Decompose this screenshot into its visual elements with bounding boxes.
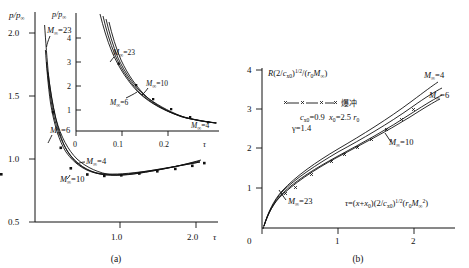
legend-label: 爆冲	[341, 98, 357, 108]
panel-a-label-m10: M∞=10	[59, 174, 84, 185]
svg-text:M∞=23: M∞=23	[287, 196, 312, 207]
panel-b-ylabel-2: 2	[247, 143, 252, 153]
inset-ylabel-4: 4	[67, 34, 71, 43]
svg-text:M∞=6: M∞=6	[428, 90, 449, 101]
svg-text:M∞=6: M∞=6	[109, 98, 128, 108]
panel-a-ylabel-1.5: 1.5	[8, 91, 20, 101]
panel-a-markers	[0, 111, 206, 177]
inset-curve-m6	[106, 19, 216, 123]
svg-text:M∞=23: M∞=23	[112, 48, 135, 58]
svg-text:M∞=10: M∞=10	[388, 137, 413, 148]
panel-a-ylabel: p/p∞	[8, 10, 25, 21]
panel-a-xaxis-title: τ	[213, 232, 217, 242]
panel-b-legend: 爆冲	[284, 98, 357, 108]
inset-xlabel-0.1: 0.1	[113, 140, 123, 149]
inset-label-m4: M∞=4	[190, 121, 209, 131]
panel-b-ylabel-0: 0	[247, 236, 252, 246]
legend-markers	[284, 101, 337, 104]
svg-text:M∞=10: M∞=10	[145, 79, 168, 89]
panel-a-curve-m6	[47, 62, 201, 175]
panel-b-label-m10: M∞=10	[385, 133, 413, 148]
inset-label-m6: M∞=6	[109, 92, 137, 108]
panel-a-ylabel-2.0: 2.0	[8, 28, 20, 38]
panel-b: R(2/cx0)1/2/(r0M∞) 4 3 2 1 0 1 2 τ=(x+x0…	[247, 65, 455, 265]
panel-b-params-line2: γ=1.4	[291, 123, 312, 133]
panel-b-xlabel-1: 1	[335, 236, 340, 246]
panel-a-ylabel-1.0: 1.0	[8, 154, 20, 164]
svg-text:M∞=4: M∞=4	[190, 121, 209, 131]
inset-ylabel-2: 2	[67, 82, 71, 91]
panel-b-ylabel: R(2/cx0)1/2/(r0M∞)	[267, 68, 327, 79]
panel-b-ylabel-1: 1	[247, 183, 252, 193]
panel-a-caption: (a)	[111, 254, 122, 265]
panel-b-ylabel-4: 4	[247, 65, 252, 75]
figure-container: p/p∞ 2.0 1.5 1.0 0.5 1.0 2.0 τ	[0, 0, 469, 268]
panel-b-caption: (b)	[352, 254, 363, 265]
panel-b-label-m6: M∞=6	[428, 90, 449, 101]
inset-plot: p/p∞ 4 3 2 1 0 0.1 0.2 τ	[51, 10, 219, 149]
svg-text:M∞=4: M∞=4	[423, 70, 445, 81]
panel-b-params-line1: cx0=0.9 x0=2.5 r0	[300, 112, 359, 123]
svg-text:M∞=4: M∞=4	[85, 156, 107, 167]
panel-b-xlabel-2: 2	[411, 236, 416, 246]
inset-markers	[118, 63, 210, 124]
panel-b-label-m4: M∞=4	[423, 70, 445, 81]
svg-text:M∞=6: M∞=6	[49, 125, 70, 136]
panel-b-ylabel-3: 3	[247, 104, 252, 114]
inset-label-m10: M∞=10	[142, 79, 168, 95]
inset-ylabel-3: 3	[67, 58, 71, 67]
inset-curve-m4	[109, 22, 217, 123]
panel-a-xlabel-1.0: 1.0	[111, 232, 123, 242]
inset-xlabel-0.2: 0.2	[159, 140, 169, 149]
inset-ylabel: p/p∞	[51, 10, 66, 20]
inset-xaxis-title: τ	[203, 140, 207, 149]
panel-b-xaxis-title: τ=(x+x0)(2/cx0)1/2(r0M∞2)	[345, 198, 428, 209]
panel-a: p/p∞ 2.0 1.5 1.0 0.5 1.0 2.0 τ	[0, 10, 218, 265]
svg-text:M∞=10: M∞=10	[59, 174, 84, 185]
inset-label-m23: M∞=23	[110, 48, 135, 62]
panel-a-ylabel-0.5: 0.5	[8, 217, 20, 227]
figure-svg: p/p∞ 2.0 1.5 1.0 0.5 1.0 2.0 τ	[0, 0, 469, 268]
inset-ylabel-1: 1	[67, 106, 71, 115]
inset-xlabel-0: 0	[73, 140, 77, 149]
panel-a-xlabel-2.0: 2.0	[187, 232, 199, 242]
